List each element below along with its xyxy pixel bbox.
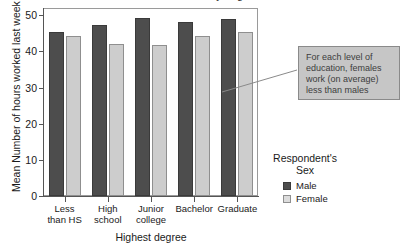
bar-male-3	[178, 22, 193, 196]
x-tick-mark	[108, 197, 109, 202]
legend-label: Female	[296, 194, 328, 204]
legend-swatch-female	[283, 195, 291, 203]
y-tick-label: 0	[31, 191, 37, 202]
y-tick-mark	[39, 88, 43, 89]
bar-female-0	[66, 36, 81, 196]
chart-title: Mean hours worked by degree and sex	[0, 0, 411, 3]
y-tick-mark	[39, 124, 43, 125]
x-tick-mark	[65, 197, 66, 202]
bar-female-2	[152, 45, 167, 196]
bar-male-4	[221, 19, 236, 196]
y-tick-label: 40	[25, 46, 37, 57]
y-tick-label: 50	[25, 10, 37, 21]
y-tick-label: 20	[25, 118, 37, 129]
legend-swatch-male	[283, 182, 291, 190]
bar-female-3	[195, 36, 210, 196]
x-tick-label: Graduate	[218, 204, 258, 215]
legend: Respondent's Sex MaleFemale	[262, 152, 408, 205]
legend-item-female[interactable]: Female	[283, 192, 408, 205]
y-tick-label: 30	[25, 82, 37, 93]
y-axis-title: Mean Number of hours worked last week	[10, 1, 22, 192]
y-tick-mark	[39, 51, 43, 52]
legend-label: Male	[296, 181, 317, 191]
y-axis-line	[43, 8, 44, 197]
bar-female-4	[238, 32, 253, 196]
x-tick-mark	[194, 197, 195, 202]
bar-male-0	[49, 32, 64, 197]
x-tick-label: High school	[94, 204, 121, 225]
legend-item-male[interactable]: Male	[283, 179, 408, 192]
bar-chart-figure: Mean hours worked by degree and sex 0102…	[0, 0, 411, 252]
y-tick-mark	[39, 15, 43, 16]
annotation-callout: For each level of education, females wor…	[298, 46, 400, 100]
x-tick-label: Bachelor	[175, 204, 213, 215]
legend-title: Respondent's Sex	[262, 152, 348, 176]
y-tick-mark	[39, 160, 43, 161]
y-tick-label: 10	[25, 155, 37, 166]
bar-female-1	[109, 44, 124, 196]
legend-items: MaleFemale	[262, 179, 408, 205]
bar-male-1	[92, 25, 107, 196]
x-tick-mark	[151, 197, 152, 202]
x-axis-title: Highest degree	[43, 231, 259, 243]
bar-male-2	[135, 18, 150, 196]
x-tick-mark	[237, 197, 238, 202]
x-tick-label: Less than HS	[47, 204, 81, 225]
x-tick-label: Junior college	[136, 204, 166, 225]
